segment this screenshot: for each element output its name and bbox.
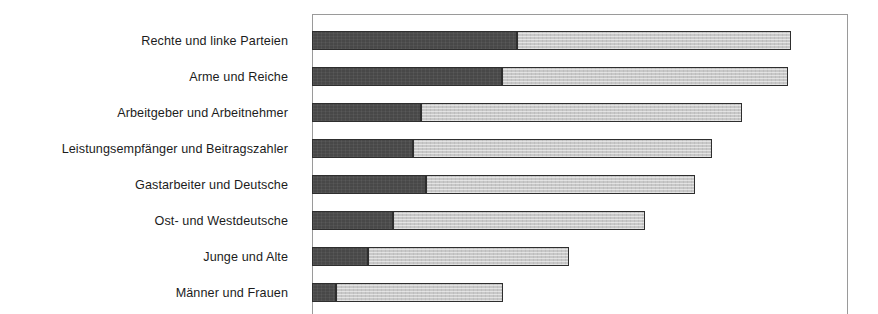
bar-segment-light-3 bbox=[413, 139, 712, 158]
bar-row-3 bbox=[313, 139, 847, 158]
bar-row-4 bbox=[313, 175, 847, 194]
bar-segment-dark-2 bbox=[312, 103, 421, 122]
bar-segment-light-2 bbox=[421, 103, 742, 122]
category-label-axis: Rechte und linke Parteien Arme und Reich… bbox=[0, 0, 300, 314]
bar-row-0 bbox=[313, 31, 847, 50]
category-label-7: Männer und Frauen bbox=[0, 286, 288, 300]
category-label-4: Gastarbeiter und Deutsche bbox=[0, 178, 288, 192]
category-label-2: Arbeitgeber und Arbeitnehmer bbox=[0, 106, 288, 120]
bar-segment-dark-1 bbox=[312, 67, 502, 86]
bar-segment-dark-6 bbox=[312, 247, 368, 266]
bar-row-5 bbox=[313, 211, 847, 230]
category-label-3: Leistungsempfänger und Beitragszahler bbox=[0, 142, 288, 156]
bar-segment-light-7 bbox=[336, 283, 503, 302]
plot-area bbox=[312, 14, 848, 314]
bar-segment-dark-0 bbox=[312, 31, 517, 50]
bar-segment-light-5 bbox=[393, 211, 645, 230]
bar-segment-light-4 bbox=[426, 175, 695, 194]
bar-segment-dark-7 bbox=[312, 283, 336, 302]
bar-row-7 bbox=[313, 283, 847, 302]
bar-segment-dark-4 bbox=[312, 175, 426, 194]
bar-segment-light-0 bbox=[517, 31, 791, 50]
horizontal-stacked-bar-chart: Rechte und linke Parteien Arme und Reich… bbox=[0, 0, 878, 314]
category-label-1: Arme und Reiche bbox=[0, 70, 288, 84]
bar-segment-light-1 bbox=[502, 67, 788, 86]
bar-row-1 bbox=[313, 67, 847, 86]
bar-row-6 bbox=[313, 247, 847, 266]
category-label-6: Junge und Alte bbox=[0, 250, 288, 264]
bar-row-2 bbox=[313, 103, 847, 122]
bar-segment-dark-3 bbox=[312, 139, 413, 158]
category-label-5: Ost- und Westdeutsche bbox=[0, 214, 288, 228]
bar-segment-light-6 bbox=[368, 247, 569, 266]
bar-segment-dark-5 bbox=[312, 211, 393, 230]
category-label-0: Rechte und linke Parteien bbox=[0, 34, 288, 48]
